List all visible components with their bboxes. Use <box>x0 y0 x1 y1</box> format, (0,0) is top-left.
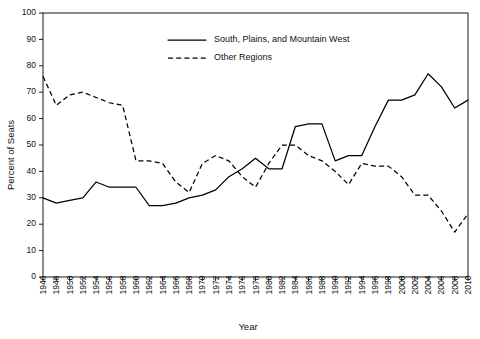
y-tick-label: 100 <box>22 7 36 17</box>
y-tick-label: 20 <box>27 218 37 228</box>
legend-label-1: South, Plains, and Mountain West <box>214 34 350 44</box>
line-chart: 0102030405060708090100 19461948195019521… <box>0 0 480 339</box>
y-tick-label: 70 <box>27 86 37 96</box>
x-tick-label: 1980 <box>264 275 274 294</box>
x-tick-label: 1994 <box>357 275 367 294</box>
y-tick-label: 50 <box>27 139 37 149</box>
x-axis-ticks: 1946194819501952195419561958196019621964… <box>38 275 473 294</box>
x-tick-label: 1956 <box>104 275 114 294</box>
x-axis-label: Year <box>238 321 257 332</box>
x-tick-label: 2004 <box>423 275 433 294</box>
x-tick-label: 1990 <box>330 275 340 294</box>
x-tick-label: 1962 <box>144 275 154 294</box>
data-series <box>43 74 468 232</box>
x-tick-label: 1976 <box>237 275 247 294</box>
x-tick-label: 1954 <box>91 275 101 294</box>
x-tick-label: 2002 <box>410 275 420 294</box>
x-tick-label: 1950 <box>65 275 75 294</box>
x-tick-label: 1958 <box>118 275 128 294</box>
y-tick-label: 10 <box>27 245 37 255</box>
x-tick-label: 1964 <box>158 275 168 294</box>
legend-label-2: Other Regions <box>214 52 273 62</box>
x-tick-label: 2010 <box>463 275 473 294</box>
x-tick-label: 1960 <box>131 275 141 294</box>
x-tick-label: 2000 <box>397 275 407 294</box>
x-tick-label: 1988 <box>317 275 327 294</box>
x-tick-label: 1970 <box>197 275 207 294</box>
x-tick-label: 2006 <box>436 275 446 294</box>
x-tick-label: 1968 <box>184 275 194 294</box>
y-tick-label: 80 <box>27 60 37 70</box>
y-tick-label: 90 <box>27 34 37 44</box>
x-tick-label: 1984 <box>290 275 300 294</box>
y-tick-label: 60 <box>27 113 37 123</box>
x-tick-label: 1982 <box>277 275 287 294</box>
x-tick-label: 1986 <box>304 275 314 294</box>
x-tick-label: 1966 <box>171 275 181 294</box>
x-tick-label: 1948 <box>51 275 61 294</box>
y-axis-ticks: 0102030405060708090100 <box>22 7 43 281</box>
y-tick-label: 30 <box>27 192 37 202</box>
x-tick-label: 1978 <box>251 275 261 294</box>
x-tick-label: 2008 <box>450 275 460 294</box>
y-tick-label: 40 <box>27 166 37 176</box>
x-tick-label: 1952 <box>78 275 88 294</box>
chart-legend: South, Plains, and Mountain WestOther Re… <box>168 34 350 62</box>
y-axis-label: Percent of Seats <box>5 120 16 190</box>
x-tick-label: 1996 <box>370 275 380 294</box>
x-tick-label: 1974 <box>224 275 234 294</box>
x-tick-label: 1998 <box>383 275 393 294</box>
x-tick-label: 1946 <box>38 275 48 294</box>
x-tick-label: 1972 <box>211 275 221 294</box>
series-line-1 <box>43 74 468 206</box>
y-tick-label: 0 <box>31 271 36 281</box>
x-tick-label: 1992 <box>343 275 353 294</box>
chart-figure: 0102030405060708090100 19461948195019521… <box>0 0 480 339</box>
